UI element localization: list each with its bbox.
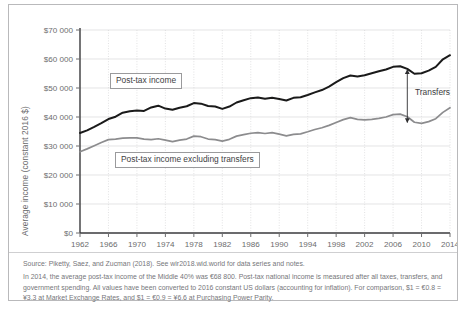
- callout-post-tax-income-excluding-transfers: Post-tax income excluding transfers: [115, 152, 260, 168]
- svg-text:$50 000: $50 000: [44, 84, 74, 93]
- svg-text:1966: 1966: [99, 240, 118, 249]
- svg-text:1982: 1982: [213, 240, 232, 249]
- svg-text:2006: 2006: [384, 240, 403, 249]
- footnote-source: Source: Piketty, Saez, and Zucman (2018)…: [23, 259, 443, 269]
- svg-text:1994: 1994: [299, 240, 318, 249]
- chart-figure: Average income (constant 2016 $) $0$10 0…: [0, 0, 466, 313]
- line-chart-svg: $0$10 000$20 000$30 000$40 000$50 000$60…: [9, 5, 457, 251]
- svg-text:1978: 1978: [185, 240, 204, 249]
- svg-text:$30 000: $30 000: [44, 142, 74, 151]
- svg-text:1990: 1990: [270, 240, 289, 249]
- svg-text:2002: 2002: [356, 240, 375, 249]
- footnote-block: Source: Piketty, Saez, and Zucman (2018)…: [9, 252, 457, 300]
- svg-text:1970: 1970: [128, 240, 147, 249]
- svg-text:1974: 1974: [156, 240, 175, 249]
- svg-text:$70 000: $70 000: [44, 26, 74, 35]
- svg-text:2010: 2010: [413, 240, 432, 249]
- footnote-note: In 2014, the average post-tax income of …: [23, 272, 443, 303]
- svg-text:1986: 1986: [242, 240, 261, 249]
- callout-post-tax-income: Post-tax income: [110, 73, 182, 89]
- plot-area: $0$10 000$20 000$30 000$40 000$50 000$60…: [9, 5, 457, 251]
- svg-text:$20 000: $20 000: [44, 171, 74, 180]
- svg-text:1962: 1962: [71, 240, 90, 249]
- svg-text:$40 000: $40 000: [44, 113, 74, 122]
- svg-text:2014: 2014: [441, 240, 457, 249]
- transfers-annotation-label: Transfers: [415, 87, 450, 97]
- svg-text:$60 000: $60 000: [44, 55, 74, 64]
- svg-text:$0: $0: [64, 229, 74, 238]
- svg-text:$10 000: $10 000: [44, 200, 74, 209]
- svg-text:1998: 1998: [327, 240, 346, 249]
